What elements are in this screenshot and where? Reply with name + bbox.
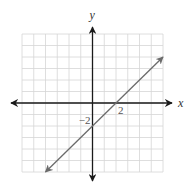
y-tick-label: −2 [79, 114, 91, 126]
x-tick-label: 2 [118, 104, 124, 116]
y-axis-label: y [89, 8, 96, 22]
coordinate-plane: xy2−2 [0, 0, 188, 185]
labels-layer: xy2−2 [79, 8, 184, 126]
x-axis-label: x [177, 96, 184, 110]
axes [11, 27, 172, 181]
